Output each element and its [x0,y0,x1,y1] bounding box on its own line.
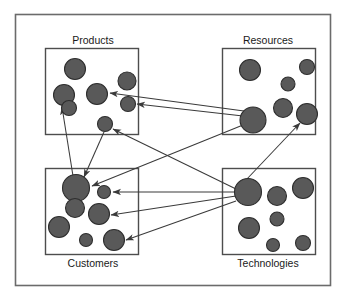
node-products-p7[interactable] [98,117,113,132]
node-products-p1[interactable] [65,59,86,80]
cluster-label-products: Products [72,34,113,46]
node-technologies-t3[interactable] [293,178,314,199]
node-technologies-t4[interactable] [270,212,284,226]
node-resources-r1[interactable] [240,60,261,81]
node-technologies-t2[interactable] [268,187,287,206]
node-products-p6[interactable] [121,97,136,112]
diagram-canvas: ProductsResourcesCustomersTechnologies [0,0,353,299]
node-products-p5[interactable] [62,101,77,116]
node-customers-c2[interactable] [98,186,111,199]
node-resources-r5[interactable] [240,107,266,133]
node-customers-c4[interactable] [89,204,110,225]
node-technologies-t7[interactable] [296,236,311,251]
node-technologies-t5[interactable] [239,218,260,239]
node-technologies-t1[interactable] [235,179,262,206]
node-resources-r4[interactable] [274,99,293,118]
node-technologies-t6[interactable] [267,239,280,252]
cluster-network-diagram: ProductsResourcesCustomersTechnologies [0,0,353,299]
arrow-a9 [126,201,236,240]
cluster-label-customers: Customers [68,257,119,269]
node-products-p4[interactable] [87,84,108,105]
node-customers-c7[interactable] [104,230,125,251]
node-resources-r6[interactable] [297,104,318,125]
node-customers-c3[interactable] [66,199,85,218]
cluster-label-resources: Resources [243,34,293,46]
node-customers-c5[interactable] [49,217,70,238]
node-customers-c6[interactable] [80,234,93,247]
node-customers-c1[interactable] [63,175,90,202]
node-resources-r2[interactable] [300,60,315,75]
node-resources-r3[interactable] [281,77,295,91]
cluster-label-technologies: Technologies [237,257,298,269]
node-products-p2[interactable] [118,72,136,90]
